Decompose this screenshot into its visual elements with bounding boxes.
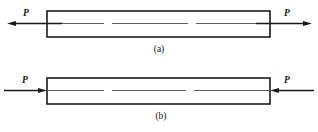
load-arrow-left-head xyxy=(38,88,47,93)
load-label-right: P xyxy=(284,75,290,85)
prismatic-bar xyxy=(47,78,270,104)
load-arrow-right-head xyxy=(270,88,279,93)
axial-loading-figure: PP(a)PP(b) xyxy=(0,0,318,132)
load-label-right: P xyxy=(284,8,290,18)
load-label-left: P xyxy=(23,8,29,18)
prismatic-bar xyxy=(47,11,270,37)
panel-b: PP(b) xyxy=(4,75,314,122)
figure-canvas: PP(a)PP(b) xyxy=(0,0,318,132)
load-label-left: P xyxy=(22,75,28,85)
panel-b-caption: (b) xyxy=(155,111,166,122)
panel-a: PP(a) xyxy=(7,8,312,55)
load-arrow-right-head xyxy=(303,21,312,26)
panel-a-caption: (a) xyxy=(154,44,165,55)
load-arrow-left-head xyxy=(7,21,16,26)
